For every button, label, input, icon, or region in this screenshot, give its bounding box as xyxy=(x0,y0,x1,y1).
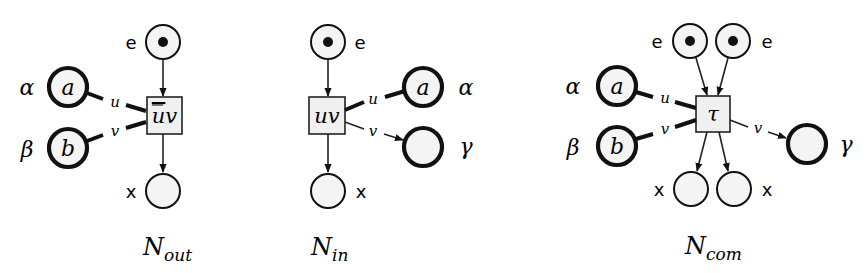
place-x2 xyxy=(717,172,751,206)
place-label-e: e xyxy=(354,32,365,53)
place-label-e1: e xyxy=(651,31,662,52)
transition-label: uv xyxy=(314,104,340,128)
arc-transition-to-x2 xyxy=(719,132,728,171)
arc-e2-to-transition xyxy=(718,58,728,95)
token-icon xyxy=(685,36,695,46)
arc-label-u: u xyxy=(110,93,120,111)
token-icon xyxy=(728,36,738,46)
label-beta: β xyxy=(20,137,34,162)
place-inner-b: b xyxy=(610,134,624,159)
arc-transition-to-x1 xyxy=(697,132,707,171)
label-alpha: α xyxy=(566,74,581,99)
label-gamma: γ xyxy=(839,132,853,157)
place-e xyxy=(146,25,180,59)
arc-a-seg1 xyxy=(87,93,103,99)
place-x1 xyxy=(674,172,708,206)
arc-label-u: u xyxy=(368,90,378,108)
arc-a-seg2 xyxy=(675,102,696,108)
place-x xyxy=(311,174,345,208)
arc-a-seg1 xyxy=(345,102,364,110)
arc-gamma-seg1 xyxy=(345,122,364,129)
arc-label-v-in: v xyxy=(661,120,670,138)
place-gamma xyxy=(404,128,442,166)
place-inner-b: b xyxy=(61,136,75,161)
arc-gamma-seg2 xyxy=(768,132,786,138)
arc-b-seg1 xyxy=(87,135,103,141)
arc-label-v-out: v xyxy=(754,119,763,137)
place-x xyxy=(146,174,180,208)
arc-b-seg2 xyxy=(126,122,146,128)
token-icon xyxy=(158,37,168,47)
arc-label-v: v xyxy=(369,122,378,140)
arc-label-u: u xyxy=(660,89,670,107)
arc-gamma-seg1 xyxy=(730,120,748,127)
transition-label: uv xyxy=(152,104,178,128)
place-label-x: x xyxy=(356,181,367,202)
petri-net-figure: e a α b β u v uv x Nout e xyxy=(0,0,867,273)
label-alpha: α xyxy=(20,75,35,100)
arc-b-seg2 xyxy=(675,120,696,127)
token-icon xyxy=(323,37,333,47)
place-label-e2: e xyxy=(761,31,772,52)
arc-a-seg2 xyxy=(385,91,405,97)
place-label-e: e xyxy=(125,32,136,53)
place-inner-a: a xyxy=(610,74,623,99)
arc-gamma-seg2 xyxy=(384,134,403,140)
place-label-x1: x xyxy=(654,179,665,200)
label-gamma: γ xyxy=(459,134,473,159)
place-gamma xyxy=(788,125,826,163)
place-inner-a: a xyxy=(61,75,74,100)
place-label-x2: x xyxy=(762,179,773,200)
transition-label: τ xyxy=(707,102,719,126)
place-inner-a: a xyxy=(416,75,429,100)
net-n-in: e uv u a α v γ x Nin xyxy=(309,25,474,265)
place-label-x: x xyxy=(126,181,137,202)
net-n-com: e e τ a α b β u v v γ x x Ncom xyxy=(566,24,854,264)
caption-n-in: Nin xyxy=(310,233,348,265)
arc-b-seg1 xyxy=(636,134,653,139)
net-n-out: e a α b β u v uv x Nout xyxy=(20,25,193,265)
label-beta: β xyxy=(566,135,580,160)
arc-label-v: v xyxy=(111,122,120,140)
arc-a-seg2 xyxy=(126,105,146,111)
label-alpha: α xyxy=(459,75,474,100)
caption-n-out: Nout xyxy=(142,233,192,265)
arc-a-seg1 xyxy=(636,92,653,97)
arc-e1-to-transition xyxy=(696,58,707,95)
caption-n-com: Ncom xyxy=(684,232,742,264)
